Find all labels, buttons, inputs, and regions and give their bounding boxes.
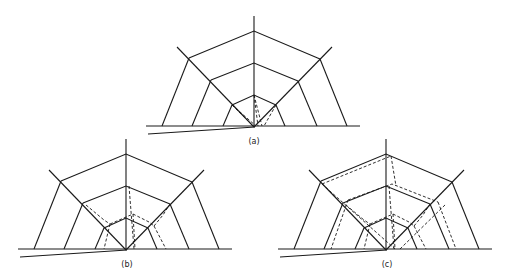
dashed-ray — [254, 95, 262, 126]
inner-left-leg — [355, 228, 364, 249]
middle-left-leg — [324, 203, 343, 249]
dashed-middle-ring — [348, 184, 438, 202]
lower-wedge-line — [148, 127, 255, 134]
middle-right-leg — [298, 81, 317, 126]
dashed-top — [391, 156, 396, 186]
outer-left-leg — [294, 181, 321, 249]
panel-a-diagram — [146, 16, 360, 134]
panel-c-diagram — [278, 139, 492, 257]
lower-wedge-line — [280, 250, 387, 257]
inner-right-leg — [276, 105, 285, 126]
outer-left-leg — [162, 58, 189, 126]
dashed-inner-ring — [370, 214, 414, 226]
middle-right-leg — [170, 204, 189, 249]
panel-c-label: (c) — [382, 260, 393, 269]
dashed-vertical — [129, 186, 134, 249]
middle-left-leg — [64, 203, 83, 249]
outer-right-leg — [320, 59, 347, 126]
figure-canvas: (a) (b) (c) — [0, 0, 510, 276]
dashed-outer-left — [322, 156, 391, 184]
outer-right-leg — [192, 182, 219, 249]
dashed-ray — [254, 95, 258, 126]
panel-b-label: (b) — [121, 260, 132, 269]
panel-b-diagram — [18, 139, 232, 257]
inner-left-leg — [223, 105, 232, 126]
dashed-vertical — [389, 186, 394, 249]
dashed-inner-ring — [110, 214, 154, 226]
middle-left-leg — [192, 80, 211, 126]
lower-wedge-line — [20, 250, 127, 257]
middle-right-leg — [430, 204, 449, 249]
inner-left-leg — [95, 228, 104, 249]
outer-right-leg — [452, 182, 479, 249]
outer-left-leg — [34, 181, 61, 249]
inner-right-leg — [148, 228, 157, 249]
inner-right-leg — [408, 228, 417, 249]
panel-a-label: (a) — [248, 137, 259, 146]
dashed-long-diag — [322, 184, 395, 249]
